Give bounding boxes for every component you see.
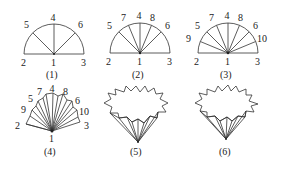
center-point [227,52,230,55]
zigzag-cut-outline [104,86,168,123]
apex-point [225,138,227,140]
label-1: 1 [49,133,54,144]
fold-line [54,33,75,54]
center-point [139,52,141,54]
caption-2: (2) [132,69,144,81]
label-4: 4 [51,12,56,23]
fold-line [226,111,246,139]
fold-line [119,118,138,142]
label-5: 5 [195,20,200,31]
label-4: 4 [50,83,55,94]
label-9: 9 [186,33,191,44]
label-3: 3 [167,56,172,67]
fold-line [140,32,161,53]
label-6: 6 [78,19,83,30]
fold-line [140,25,152,53]
fold-line [119,32,140,53]
label-3: 3 [81,57,86,68]
center-point [53,53,55,55]
label-10: 10 [79,106,89,117]
figure-3: 4 7 8 5 6 9 10 2 1 3 (3) [186,10,267,81]
label-2: 2 [21,57,26,68]
label-5: 5 [28,93,33,104]
label-1: 1 [225,56,230,67]
figure-1: 4 5 6 2 1 3 (1) [21,12,86,81]
label-7: 7 [209,12,214,23]
label-1: 1 [51,57,56,68]
label-4: 4 [137,10,142,21]
label-5: 5 [107,20,112,31]
label-2: 2 [106,56,111,67]
fold-line [215,116,226,139]
label-2: 2 [194,56,199,67]
fold-line [207,117,226,139]
apex-point [137,141,139,143]
figure-4: 4 7 8 5 6 9 10 2 3 1 (4) [15,83,89,158]
fold-line [207,32,228,53]
label-7: 7 [37,86,42,97]
fold-line [127,117,138,142]
fold-line [52,110,77,131]
fold-line [228,32,249,53]
caption-1: (1) [46,69,58,81]
caption-6: (6) [219,146,231,158]
caption-4: (4) [44,146,56,158]
figure-6: (6) [195,85,258,158]
label-6: 6 [253,20,258,31]
label-2: 2 [15,120,20,131]
label-3: 3 [84,120,89,131]
label-7: 7 [121,12,126,23]
caption-3: (3) [220,69,232,81]
label-9: 9 [21,104,26,115]
fold-line [52,101,72,131]
fold-line [33,33,54,54]
label-6: 6 [75,95,80,106]
label-10: 10 [257,33,267,44]
label-6: 6 [165,20,170,31]
fold-line [129,25,141,53]
label-4: 4 [225,10,230,21]
paper-folding-diagram: 4 5 6 2 1 3 (1) 4 7 8 5 6 2 1 3 (2) [0,0,282,169]
label-1: 1 [137,56,142,67]
label-5: 5 [24,19,29,30]
label-8: 8 [150,12,155,23]
caption-5: (5) [130,146,142,158]
figure-2: 4 7 8 5 6 2 1 3 (2) [106,10,172,81]
label-3: 3 [255,56,260,67]
label-8: 8 [238,12,243,23]
figure-5: (5) [104,86,168,158]
lower-fold-edge [110,112,158,123]
label-8: 8 [63,86,68,97]
fold-line [138,112,158,142]
